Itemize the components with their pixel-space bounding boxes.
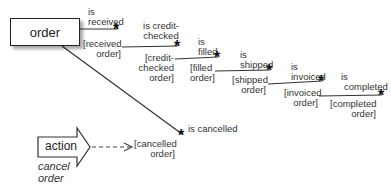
state-label-received: [received order] <box>83 39 121 59</box>
event-marker-icon: * <box>378 88 384 104</box>
order-entity-box: order <box>10 18 80 46</box>
event-marker-icon: * <box>174 39 180 55</box>
event-marker-icon: * <box>113 22 119 38</box>
action-caption: cancel order <box>38 160 70 184</box>
order-entity-label: order <box>30 25 60 40</box>
connector-filled <box>175 57 218 59</box>
state-label-invoiced: [invoiced order] <box>284 88 318 108</box>
state-label-filled: [filled order] <box>190 63 212 83</box>
state-label-credit-checked: [credit- checked order] <box>134 53 174 83</box>
action-label: action <box>45 139 77 153</box>
state-label-cancelled: [cancelled order] <box>134 139 175 159</box>
connector-credit-checked <box>122 46 178 47</box>
event-label-cancelled: is cancelled <box>188 124 238 134</box>
connector-completed <box>319 95 382 96</box>
connector-shipped <box>215 70 270 71</box>
event-marker-icon: * <box>178 128 184 144</box>
state-label-shipped: [shipped order] <box>232 75 266 95</box>
event-marker-icon: * <box>214 50 220 66</box>
state-label-completed: [completed order] <box>330 99 376 119</box>
